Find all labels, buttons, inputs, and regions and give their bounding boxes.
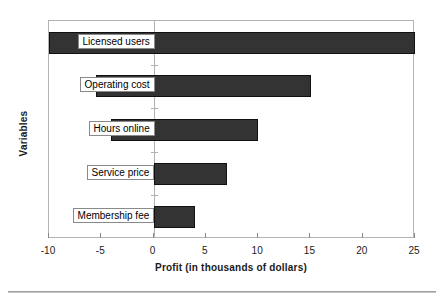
bar [154,206,196,228]
bar-label: Licensed users [78,34,155,49]
x-axis-tick [100,233,101,238]
zero-axis-minor-tick [151,108,158,109]
x-axis-title: Profit (in thousands of dollars) [48,262,414,273]
bar [154,163,227,185]
bar-label: Service price [87,165,155,180]
tornado-chart-figure: Variables Profit (in thousands of dollar… [0,0,444,303]
zero-axis-minor-tick [151,152,158,153]
x-axis-tick-label: 5 [185,245,225,256]
x-axis-tick-label: -10 [28,245,68,256]
x-axis-tick-label: 25 [394,245,434,256]
x-axis-tick [414,233,415,238]
zero-axis-minor-tick [151,65,158,66]
page-divider-rule [8,291,436,293]
x-axis-tick [153,233,154,238]
x-axis-tick [205,233,206,238]
x-axis-tick [309,233,310,238]
x-axis-tick-label: 15 [289,245,329,256]
bar-label: Hours online [89,121,155,136]
y-axis-title: Variables [18,89,29,179]
x-axis-tick [362,233,363,238]
x-axis-tick-label: 10 [237,245,277,256]
x-axis-tick-label: 20 [342,245,382,256]
zero-axis-minor-tick [151,195,158,196]
x-axis-tick [257,233,258,238]
bar-label: Membership fee [73,208,155,223]
bar-label: Operating cost [80,77,155,92]
x-axis-tick [48,233,49,238]
x-axis-tick-label: 0 [133,245,173,256]
x-axis-tick-label: -5 [80,245,120,256]
